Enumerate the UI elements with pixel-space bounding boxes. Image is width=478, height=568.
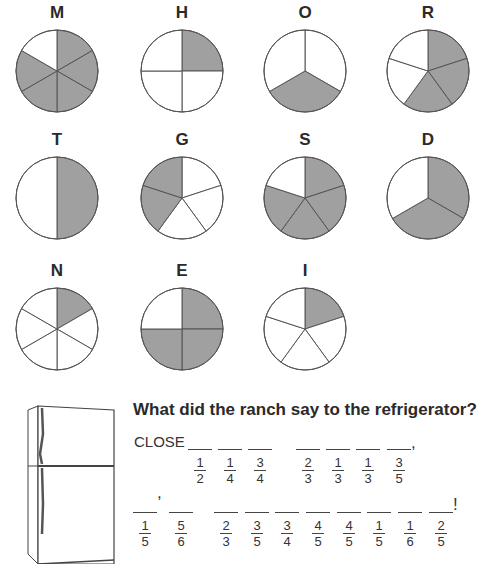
fraction-denominator: 3 — [220, 534, 231, 548]
answer-blank[interactable]: 15 — [367, 512, 391, 550]
pie-i: I — [255, 260, 355, 372]
pie-letter: N — [7, 260, 107, 282]
fraction-denominator: 3 — [362, 471, 373, 485]
answer-blank[interactable]: 34 — [248, 449, 272, 487]
pie-slice-empty — [141, 288, 182, 329]
pie-n: N — [7, 260, 107, 372]
answer-prefix: CLOSE — [134, 433, 185, 450]
pie-chart — [14, 286, 100, 372]
pie-chart — [14, 28, 100, 114]
fraction-numerator: 1 — [224, 456, 235, 471]
answer-blank[interactable]: 45 — [306, 512, 330, 550]
answer-blank[interactable]: 35 — [245, 512, 269, 550]
pie-h: H — [132, 2, 232, 114]
fraction-numerator: 1 — [194, 456, 205, 471]
blank-line[interactable] — [214, 512, 238, 513]
pie-chart — [385, 155, 471, 241]
pie-letter: S — [255, 129, 355, 151]
blank-line[interactable] — [169, 512, 193, 513]
pie-chart — [139, 286, 225, 372]
answer-blank[interactable]: 45 — [337, 512, 361, 550]
answer-blank[interactable]: 23 — [214, 512, 238, 550]
pie-letter: O — [255, 2, 355, 24]
pie-letter: M — [7, 2, 107, 24]
comma-punctuation: , — [157, 483, 162, 503]
blank-line[interactable] — [326, 449, 350, 450]
pie-slice-shaded — [57, 157, 98, 239]
pie-g: G — [132, 129, 232, 241]
blank-line[interactable] — [367, 512, 391, 513]
fraction-numerator: 5 — [175, 519, 186, 534]
fraction-denominator: 5 — [251, 534, 262, 548]
fraction-label: 34 — [281, 519, 292, 548]
answer-blank[interactable]: 35 — [387, 449, 411, 487]
answer-blank[interactable]: 56 — [169, 512, 193, 550]
answer-blank[interactable]: 12 — [188, 449, 212, 487]
riddle-question: What did the ranch say to the refrigerat… — [133, 400, 477, 420]
fraction-denominator: 5 — [373, 534, 384, 548]
pie-slice-shaded — [182, 288, 223, 329]
fraction-label: 45 — [343, 519, 354, 548]
answer-blank[interactable]: 13 — [356, 449, 380, 487]
pie-m: M — [7, 2, 107, 114]
fraction-numerator: 4 — [312, 519, 323, 534]
answer-blank[interactable]: 23 — [296, 449, 320, 487]
answer-blank[interactable]: 13 — [326, 449, 350, 487]
fraction-numerator: 1 — [373, 519, 384, 534]
fraction-denominator: 5 — [312, 534, 323, 548]
fraction-denominator: 6 — [404, 534, 415, 548]
answer-blank[interactable]: 14 — [218, 449, 242, 487]
pie-slice-shaded — [182, 30, 223, 71]
fraction-numerator: 1 — [332, 456, 343, 471]
fraction-numerator: 1 — [362, 456, 373, 471]
blank-line[interactable] — [356, 449, 380, 450]
fraction-denominator: 4 — [224, 471, 235, 485]
blank-line[interactable] — [337, 512, 361, 513]
fraction-label: 35 — [393, 456, 404, 485]
fraction-label: 13 — [362, 456, 373, 485]
pie-slice-empty — [141, 71, 182, 112]
fraction-numerator: 3 — [254, 456, 265, 471]
pie-r: R — [378, 2, 478, 114]
fraction-label: 25 — [435, 519, 446, 548]
answer-blank[interactable]: 34 — [275, 512, 299, 550]
blank-line[interactable] — [275, 512, 299, 513]
blank-line[interactable] — [133, 512, 157, 513]
fraction-label: 16 — [404, 519, 415, 548]
answer-blank[interactable]: 15 — [133, 512, 157, 550]
fraction-label: 12 — [194, 456, 205, 485]
blank-line[interactable] — [296, 449, 320, 450]
pie-chart — [262, 155, 348, 241]
blank-line[interactable] — [398, 512, 422, 513]
blank-line[interactable] — [218, 449, 242, 450]
fraction-numerator: 3 — [281, 519, 292, 534]
pie-chart — [139, 155, 225, 241]
blank-line[interactable] — [188, 449, 212, 450]
fraction-numerator: 2 — [435, 519, 446, 534]
fraction-label: 15 — [139, 519, 150, 548]
pie-letter: T — [7, 129, 107, 151]
blank-line[interactable] — [245, 512, 269, 513]
blank-line[interactable] — [306, 512, 330, 513]
fraction-denominator: 4 — [281, 534, 292, 548]
fraction-denominator: 5 — [343, 534, 354, 548]
pie-t: T — [7, 129, 107, 241]
fraction-label: 23 — [302, 456, 313, 485]
fraction-label: 14 — [224, 456, 235, 485]
blank-line[interactable] — [248, 449, 272, 450]
fraction-denominator: 3 — [302, 471, 313, 485]
blank-line[interactable] — [387, 449, 411, 450]
pie-letter: H — [132, 2, 232, 24]
answer-blank[interactable]: 25 — [429, 512, 453, 550]
pie-slice-empty — [141, 30, 182, 71]
pie-slice-empty — [182, 71, 223, 112]
blank-line[interactable] — [429, 512, 453, 513]
fraction-label: 15 — [373, 519, 384, 548]
pie-chart — [262, 286, 348, 372]
refrigerator-illustration — [26, 404, 116, 564]
answer-blank[interactable]: 16 — [398, 512, 422, 550]
fraction-label: 23 — [220, 519, 231, 548]
pie-d: D — [378, 129, 478, 241]
pie-letter: E — [132, 260, 232, 282]
fraction-label: 45 — [312, 519, 323, 548]
